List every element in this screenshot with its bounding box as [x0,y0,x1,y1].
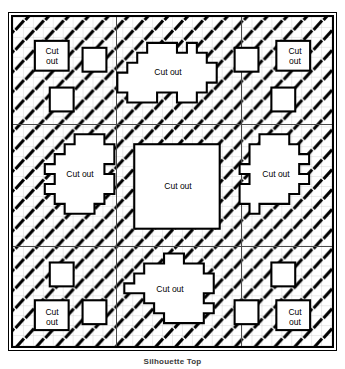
plate-inner-border: Cut out Cut out Cut out Cut out Cut out … [11,15,334,348]
cutout-middle-right-polygon [240,134,310,214]
cutout-top-left-square-small-b [50,88,74,112]
cutout-top-center-polygon [117,43,216,103]
cutout-bottom-left-square-small-b [83,300,107,324]
cutout-middle-left-polygon [45,134,115,214]
cutout-bottom-right-square-large [276,300,310,330]
cutout-top-left-square-small-a [83,48,107,72]
plate-outer-border: Cut out Cut out Cut out Cut out Cut out … [8,12,337,351]
cutout-outlines-svg [13,17,332,346]
cutout-top-left-square-large [35,41,69,71]
figure-caption: Silhouette Top [0,357,345,366]
cutout-center-square-large [134,144,219,228]
cutout-bottom-left-square-small-a [50,263,74,287]
cutout-bottom-center-polygon [124,254,213,324]
cutout-bottom-right-square-small-b [235,300,259,324]
cutout-shapes-layer [13,17,332,346]
cutout-top-right-square-small-b [271,88,295,112]
cutout-bottom-left-square-large [35,300,69,330]
cutout-bottom-right-square-small-a [271,263,295,287]
cutout-top-right-square-small-a [235,48,259,72]
cutout-top-right-square-large [276,41,310,71]
silhouette-top-figure: Cut out Cut out Cut out Cut out Cut out … [0,0,345,369]
